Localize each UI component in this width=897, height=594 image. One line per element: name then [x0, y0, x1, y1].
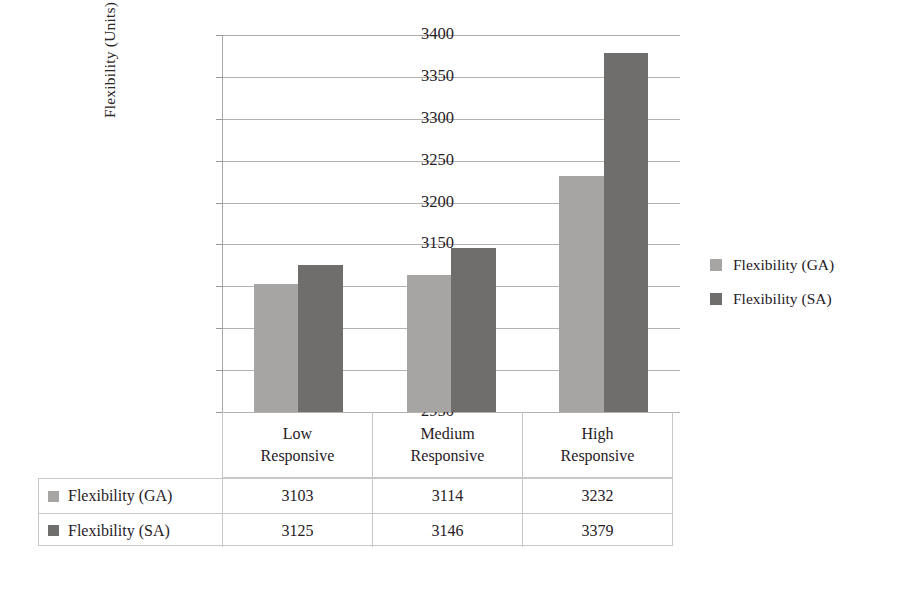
bar-ga-0: [254, 284, 299, 412]
y-tick-mark-3400: [216, 35, 223, 36]
y-axis-title: Flexibility (Units): [95, 0, 125, 160]
bar-ga-1: [407, 275, 452, 412]
y-tick-mark-3300: [216, 119, 223, 120]
bar-sa-2: [604, 53, 649, 412]
legend-color-swatch-icon: [710, 259, 722, 271]
table-cell-r0-c0: 3103: [223, 479, 372, 513]
series-color-swatch-icon: [48, 491, 59, 502]
series-name: Flexibility (GA): [68, 487, 172, 505]
category-label-line: Low: [283, 423, 312, 444]
y-tick-mark-3100: [216, 286, 223, 287]
legend-item-1: Flexibility (SA): [710, 282, 890, 316]
y-tick-label-3150: 3150: [384, 235, 454, 252]
y-tick-mark-3250: [216, 161, 223, 162]
legend: Flexibility (GA)Flexibility (SA): [710, 248, 890, 316]
series-color-swatch-icon: [48, 525, 59, 536]
table-row: Flexibility (GA)310331143232: [39, 479, 672, 513]
category-label-0: LowResponsive: [222, 412, 372, 477]
plot-area: 3400335033003250320031503100305030002950: [222, 35, 680, 412]
category-label-line: Responsive: [261, 445, 335, 466]
table-cell-r0-c2: 3232: [522, 479, 672, 513]
legend-item-0: Flexibility (GA): [710, 248, 890, 282]
table-cell-r1-c0: 3125: [223, 514, 372, 547]
y-tick-label-3350: 3350: [384, 68, 454, 85]
category-label-line: Responsive: [411, 445, 485, 466]
table-cell-r1-c1: 3146: [372, 514, 522, 547]
category-label-1: MediumResponsive: [372, 412, 522, 477]
table-row-label: Flexibility (SA): [39, 514, 223, 547]
y-axis-line: [222, 35, 223, 412]
bar-sa-1: [451, 248, 496, 412]
y-tick-mark-3050: [216, 328, 223, 329]
y-tick-label-3250: 3250: [384, 152, 454, 169]
y-tick-label-3400: 3400: [384, 26, 454, 43]
category-label-2: HighResponsive: [522, 412, 672, 477]
legend-label: Flexibility (GA): [733, 256, 834, 274]
table-cell-r0-c1: 3114: [372, 479, 522, 513]
y-tick-mark-3350: [216, 77, 223, 78]
bar-ga-2: [559, 176, 604, 412]
table-row-label: Flexibility (GA): [39, 479, 223, 513]
chart-figure: Flexibility (Units) 34003350330032503200…: [0, 0, 897, 594]
table-cell-r1-c2: 3379: [522, 514, 672, 547]
category-axis-row: LowResponsiveMediumResponsiveHighRespons…: [222, 412, 673, 478]
bar-sa-0: [298, 265, 343, 412]
category-label-line: Responsive: [561, 445, 635, 466]
table-row: Flexibility (SA)312531463379: [39, 513, 672, 547]
category-label-line: Medium: [420, 423, 474, 444]
y-tick-mark-3150: [216, 244, 223, 245]
legend-label: Flexibility (SA): [733, 290, 832, 308]
series-name: Flexibility (SA): [68, 522, 170, 540]
y-tick-label-3300: 3300: [384, 110, 454, 127]
y-tick-label-3200: 3200: [384, 194, 454, 211]
y-tick-mark-3200: [216, 203, 223, 204]
category-label-line: High: [582, 423, 614, 444]
chart-data-table: Flexibility (GA)310331143232Flexibility …: [38, 478, 673, 546]
legend-color-swatch-icon: [710, 293, 722, 305]
y-tick-mark-3000: [216, 370, 223, 371]
